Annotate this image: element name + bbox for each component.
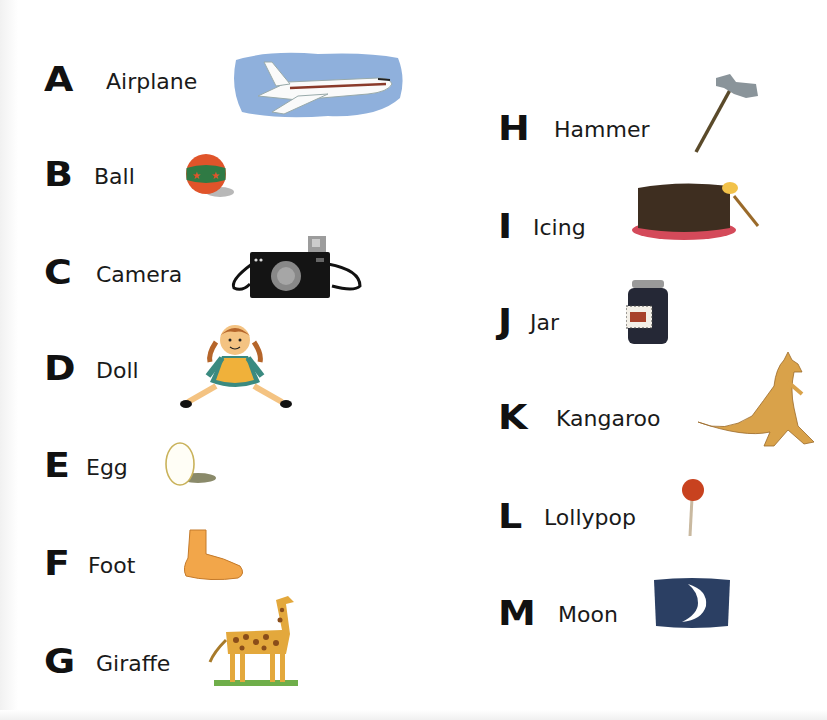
letter-c: C: [44, 256, 71, 289]
word-icing: Icing: [533, 217, 586, 239]
word-jar: Jar: [530, 312, 559, 334]
egg-icon: [160, 438, 222, 488]
jar-icon: [626, 278, 670, 346]
word-hammer: Hammer: [554, 119, 649, 141]
letter-m: M: [498, 597, 535, 630]
letter-k: K: [498, 401, 526, 434]
camera-icon: [228, 234, 364, 300]
word-moon: Moon: [558, 604, 618, 626]
letter-d: D: [44, 352, 74, 385]
ball-icon: ★ ★: [182, 152, 238, 200]
word-lollypop: Lollypop: [544, 507, 636, 529]
foot-icon: [180, 528, 246, 584]
letter-g: G: [44, 645, 74, 678]
letter-l: L: [498, 500, 521, 533]
kangaroo-icon: [694, 350, 818, 454]
doll-icon: [178, 320, 296, 412]
moon-icon: [652, 576, 732, 630]
letter-f: F: [44, 547, 69, 580]
page-edge-shadow: [0, 0, 18, 720]
lollypop-icon: [680, 478, 710, 540]
word-egg: Egg: [86, 457, 128, 479]
letter-h: H: [498, 112, 529, 145]
icing-cake-icon: [630, 176, 762, 246]
word-ball: Ball: [94, 166, 135, 188]
letter-a: A: [44, 63, 72, 96]
hammer-icon: [690, 72, 764, 156]
svg-text:★: ★: [211, 170, 220, 181]
airplane-icon: [228, 48, 406, 122]
letter-j: J: [498, 305, 511, 338]
letter-e: E: [44, 449, 69, 482]
word-airplane: Airplane: [106, 71, 197, 93]
word-doll: Doll: [96, 360, 139, 382]
giraffe-icon: [206, 590, 310, 690]
word-foot: Foot: [88, 555, 135, 577]
word-camera: Camera: [96, 264, 182, 286]
letter-b: B: [44, 158, 72, 191]
word-kangaroo: Kangaroo: [556, 408, 660, 430]
letter-i: I: [498, 210, 511, 243]
svg-text:★: ★: [192, 170, 201, 181]
page-bottom-edge: [0, 710, 827, 720]
word-giraffe: Giraffe: [96, 653, 170, 675]
